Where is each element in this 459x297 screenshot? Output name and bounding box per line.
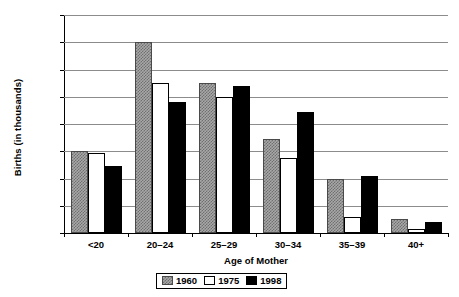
bar-group--20	[71, 15, 122, 233]
bar-1960-20-24	[135, 42, 152, 233]
bar-group-20-24	[135, 15, 186, 233]
x-axis-title: Age of Mother	[64, 255, 448, 266]
bar-1975-20-24	[152, 83, 169, 233]
bar-1960-25-29	[199, 83, 216, 233]
legend-item-1975: 1975	[204, 276, 239, 286]
x-axis-tick-mark	[384, 233, 385, 237]
bar-1960-35-39	[327, 179, 344, 233]
plot-area	[64, 15, 448, 233]
x-axis-tick-label: 40+	[384, 240, 448, 250]
bar-group-30-34	[263, 15, 314, 233]
y-axis-title: Births (in thousands)	[12, 53, 23, 203]
x-axis-tick-mark	[128, 233, 129, 237]
bar-1975-40-	[408, 229, 425, 233]
legend-label: 1975	[218, 276, 239, 286]
x-axis-tick-label: <20	[64, 240, 128, 250]
chart-legend: 196019751998	[156, 273, 287, 289]
bar-1998-25-29	[233, 86, 250, 233]
bar-1975--20	[88, 153, 105, 233]
bar-group-35-39	[327, 15, 378, 233]
x-axis-tick-label: 35–39	[320, 240, 384, 250]
bar-group-40-	[391, 15, 442, 233]
x-axis-tick-label: 30–34	[256, 240, 320, 250]
bar-1975-30-34	[280, 158, 297, 233]
bar-1998-35-39	[361, 176, 378, 233]
bar-1975-25-29	[216, 97, 233, 233]
x-axis-tick-mark	[320, 233, 321, 237]
bar-1998-20-24	[169, 102, 186, 233]
bar-1960-30-34	[263, 139, 280, 233]
bar-1975-35-39	[344, 217, 361, 233]
x-axis-tick-mark	[64, 233, 65, 237]
legend-swatch-icon-1998	[246, 276, 257, 285]
legend-swatch-icon-1960	[162, 276, 173, 285]
legend-label: 1960	[176, 276, 197, 286]
x-axis-tick-label: 25–29	[192, 240, 256, 250]
x-axis-tick-mark	[448, 233, 449, 237]
bar-1998-30-34	[297, 112, 314, 233]
bar-chart-figure: Births (in thousands) 020040060080010001…	[0, 0, 459, 297]
bar-1960--20	[71, 151, 88, 233]
x-axis-tick-mark	[256, 233, 257, 237]
bar-1998-40-	[425, 222, 442, 233]
legend-item-1998: 1998	[246, 276, 281, 286]
legend-swatch-icon-1975	[204, 276, 215, 285]
x-axis-tick-label: 20–24	[128, 240, 192, 250]
x-axis-tick-mark	[192, 233, 193, 237]
bar-group-25-29	[199, 15, 250, 233]
legend-label: 1998	[260, 276, 281, 286]
bar-1960-40-	[391, 219, 408, 233]
bar-1998--20	[105, 166, 122, 233]
legend-item-1960: 1960	[162, 276, 197, 286]
